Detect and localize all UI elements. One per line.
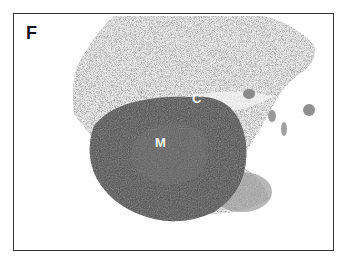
panel-label: F [26,23,37,44]
cortex-label: C [192,91,201,106]
medulla-label: M [155,135,166,150]
figure-panel: F C M [13,13,334,251]
histology-micrograph [14,14,334,251]
